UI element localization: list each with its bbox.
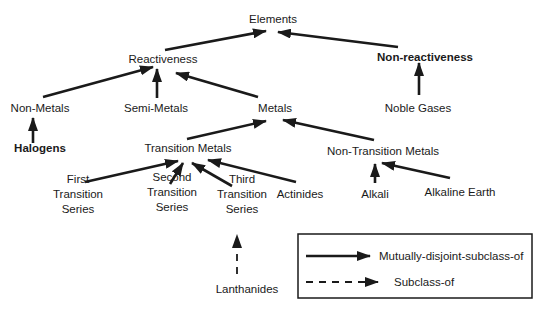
node-non-transition-metals: Non-Transition Metals: [327, 145, 439, 157]
legend-label-mutually-disjoint: Mutually-disjoint-subclass-of: [379, 250, 524, 262]
legend: Mutually-disjoint-subclass-of Subclass-o…: [298, 234, 532, 298]
edge-transition-metals-to-metals: [187, 121, 266, 139]
node-elements: Elements: [249, 13, 297, 25]
legend-label-subclass-of: Subclass-of: [394, 276, 455, 288]
node-reactiveness: Reactiveness: [128, 53, 197, 65]
node-metals: Metals: [258, 102, 292, 114]
edge-non-transition-metals-to-metals: [283, 120, 374, 140]
node-third-transition-series: ThirdTransitionSeries: [217, 173, 267, 215]
edge-non-reactiveness-to-elements: [278, 32, 398, 47]
node-alkaline-earth: Alkaline Earth: [425, 186, 496, 198]
node-semi-metals: Semi-Metals: [124, 102, 188, 114]
node-actinides: Actinides: [277, 188, 324, 200]
node-alkali: Alkali: [361, 188, 388, 200]
node-noble-gases: Noble Gases: [385, 102, 452, 114]
node-non-metals: Non-Metals: [11, 102, 70, 114]
class-hierarchy-diagram: ElementsReactivenessNon-reactivenessNon-…: [0, 0, 548, 315]
node-second-transition-series: SecondTransitionSeries: [147, 171, 197, 213]
node-non-reactiveness: Non-reactiveness: [377, 51, 473, 63]
edge-reactiveness-to-elements: [165, 31, 266, 50]
node-halogens: Halogens: [14, 142, 66, 154]
legend-box: [298, 234, 532, 298]
node-transition-metals: Transition Metals: [144, 142, 231, 154]
node-lanthanides: Lanthanides: [216, 283, 279, 295]
edge-metals-to-reactiveness: [176, 73, 258, 97]
edge-non-metals-to-reactiveness: [43, 67, 153, 97]
edge-third-transition-series-to-transition-metals: [192, 163, 232, 186]
edge-alkaline-earth-to-non-transition-metals: [382, 163, 450, 178]
